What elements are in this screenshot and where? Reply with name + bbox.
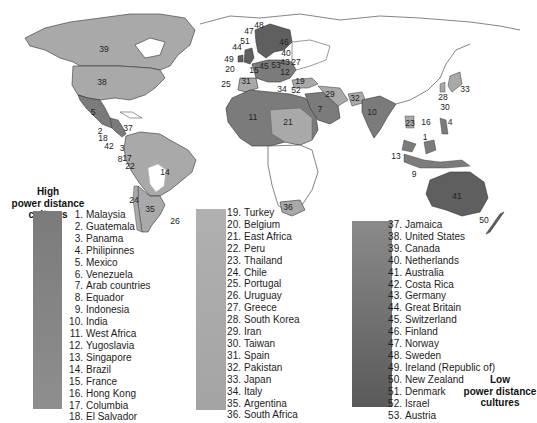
legend-item-rank: 53.: [385, 410, 402, 422]
legend-item: 3.Panama: [66, 233, 150, 245]
legend-item-rank: 25.: [224, 278, 241, 290]
map-number-label: 21: [283, 117, 293, 127]
legend-item-rank: 13.: [66, 352, 83, 364]
map-number-label: 11: [249, 112, 258, 122]
legend-item-country: Iran: [244, 326, 261, 337]
legend-item-country: United States: [405, 231, 465, 242]
map-number-label: 23: [405, 118, 415, 128]
region-mexico: [78, 95, 116, 128]
legend-item-rank: 24.: [224, 267, 241, 279]
legend-item-rank: 10.: [66, 316, 83, 328]
map-number-label: 34: [277, 84, 287, 94]
legend-item-rank: 40.: [385, 255, 402, 267]
legend-item-rank: 36.: [224, 409, 241, 421]
map-number-label: 24: [129, 195, 139, 205]
legend-item-country: El Salvador: [86, 411, 137, 422]
legend-item-rank: 32.: [224, 362, 241, 374]
legend-item: 37.Jamaica: [385, 219, 495, 231]
legend-item-rank: 47.: [385, 338, 402, 350]
map-number-label: 45: [259, 61, 269, 71]
legend-item-rank: 45.: [385, 314, 402, 326]
legend-item-country: France: [86, 376, 117, 387]
region-canada: [25, 14, 195, 70]
map-number-label: 14: [160, 167, 170, 177]
legend-item: 6.Venezuela: [66, 269, 150, 281]
legend-item-country: Greece: [244, 302, 277, 313]
legend-item-rank: 50.: [385, 374, 402, 386]
legend-item-country: Peru: [244, 243, 265, 254]
legend-item: 39.Canada: [385, 243, 495, 255]
legend-item-country: Yugoslavia: [86, 340, 134, 351]
legend-item-country: Canada: [405, 243, 440, 254]
legend-item: 1.Malaysia: [66, 209, 150, 221]
legend-item-rank: 51.: [385, 386, 402, 398]
legend-item: 9.Indonesia: [66, 304, 150, 316]
legend-item-rank: 33.: [224, 374, 241, 386]
legend-item: 35.Argentina: [224, 398, 300, 410]
legend-item-country: Argentina: [244, 398, 287, 409]
legend-item: 36.South Africa: [224, 409, 300, 421]
legend-item-country: Jamaica: [405, 219, 442, 230]
legend-item-rank: 26.: [224, 290, 241, 302]
legend-item-country: Singapore: [86, 352, 132, 363]
legend-item-rank: 12.: [66, 340, 83, 352]
map-number-label: 48: [254, 20, 264, 30]
legend-item: 40.Netherlands: [385, 255, 495, 267]
legend-item-rank: 46.: [385, 326, 402, 338]
legend-item: 18.El Salvador: [66, 411, 150, 423]
legend-item-country: Columbia: [86, 400, 128, 411]
map-number-label: 44: [232, 42, 242, 52]
legend-item-rank: 2.: [66, 221, 83, 233]
map-number-label: 12: [280, 67, 290, 77]
region-india: [362, 96, 396, 138]
legend-item-country: South Korea: [244, 314, 300, 325]
legend-item-country: Chile: [244, 267, 267, 278]
map-number-label: 49: [224, 54, 234, 64]
legend-item-country: Ireland (Republic of): [405, 362, 495, 373]
region-caribbean: [120, 112, 142, 118]
low-pd-title-line3: cultures: [460, 397, 537, 409]
legend-item-country: Philipinnes: [86, 245, 134, 256]
legend-item-rank: 41.: [385, 267, 402, 279]
map-number-label: 32: [350, 93, 360, 103]
legend-item: 20.Belgium: [224, 219, 300, 231]
legend-item-country: Finland: [405, 326, 438, 337]
legend-item: 32.Pakistan: [224, 362, 300, 374]
legend-item-country: Brazil: [86, 364, 111, 375]
legend-item-country: Israel: [405, 398, 429, 409]
legend-item-country: Venezuela: [86, 269, 133, 280]
legend-item-rank: 31.: [224, 350, 241, 362]
legend-item: 23.Thailand: [224, 255, 300, 267]
region-great-britain: [244, 48, 254, 64]
map-number-label: 17: [122, 153, 132, 163]
legend-item: 13.Singapore: [66, 352, 150, 364]
legend-item: 46.Finland: [385, 326, 495, 338]
legend-item-rank: 14.: [66, 364, 83, 376]
map-number-label: 20: [225, 64, 235, 74]
map-number-label: 3: [120, 143, 125, 153]
legend-item-country: Netherlands: [405, 255, 459, 266]
legend-item-country: Panama: [86, 233, 123, 244]
map-number-label: 43: [280, 57, 290, 67]
legend-item-country: Germany: [405, 290, 446, 301]
legend-item-country: Belgium: [244, 219, 280, 230]
legend-item-rank: 6.: [66, 269, 83, 281]
legend-item-rank: 38.: [385, 231, 402, 243]
map-number-label: 52: [291, 85, 301, 95]
legend-item: 14.Brazil: [66, 364, 150, 376]
legend-item-country: Italy: [244, 386, 262, 397]
region-indonesia: [404, 154, 470, 168]
legend-item-rank: 20.: [224, 219, 241, 231]
legend-item-country: Japan: [244, 374, 271, 385]
region-ireland: [238, 55, 243, 62]
legend-item: 33.Japan: [224, 374, 300, 386]
map-number-label: 31: [241, 76, 251, 86]
legend-item-rank: 44.: [385, 302, 402, 314]
legend-item-rank: 4.: [66, 245, 83, 257]
legend-item: 4.Philipinnes: [66, 245, 150, 257]
legend-item-rank: 9.: [66, 304, 83, 316]
legend-item: 26.Uruguay: [224, 290, 300, 302]
legend-item: 10.India: [66, 316, 150, 328]
low-pd-title-line1: Low: [460, 374, 537, 386]
legend-item-rank: 1.: [66, 209, 83, 221]
